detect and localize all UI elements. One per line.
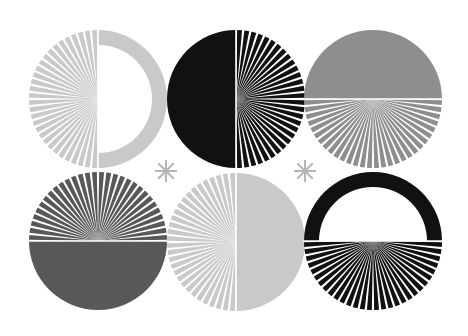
asterisk-icon [294, 160, 316, 182]
sunburst-artwork [0, 0, 468, 336]
asterisk-icon [155, 160, 177, 182]
